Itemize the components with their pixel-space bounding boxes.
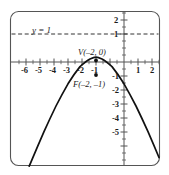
x-tick-label-neg4: -4 (49, 66, 56, 75)
x-tick-label-neg2: -2 (77, 66, 84, 75)
vertex-label: V(–2, 0) (78, 48, 106, 57)
y-tick-label-neg5: -5 (112, 128, 119, 137)
directrix-label: y = 1 (32, 26, 51, 35)
focus-label: F(–2, –1) (73, 80, 105, 89)
x-tick-label-neg6: -6 (21, 66, 28, 75)
y-tick-label-neg1: -1 (112, 72, 119, 81)
parabola-figure: -6 -5 -4 -3 -2 -1 1 2 2 1 -1 -2 -3 -4 -5… (0, 0, 169, 175)
y-tick-label-neg2: -2 (112, 86, 119, 95)
x-tick-label-neg1: -1 (91, 66, 98, 75)
vertex-point (94, 59, 98, 63)
x-tick-label-neg3: -3 (63, 66, 70, 75)
y-tick-label-1: 1 (114, 30, 118, 39)
y-tick-label-2: 2 (114, 16, 118, 25)
x-tick-label-neg5: -5 (35, 66, 42, 75)
x-tick-label-2: 2 (150, 66, 154, 75)
y-tick-label-neg4: -4 (112, 114, 119, 123)
y-tick-label-neg3: -3 (112, 100, 119, 109)
x-tick-label-1: 1 (136, 66, 140, 75)
